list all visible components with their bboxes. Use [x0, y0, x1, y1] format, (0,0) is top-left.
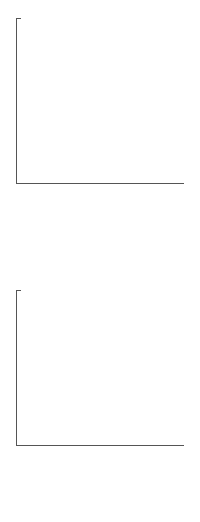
chart-i-am-alert [0, 0, 200, 262]
x-axis-line-bottom [16, 445, 184, 446]
y-axis-line-bottom [16, 290, 17, 446]
y-axis-line-top [16, 18, 17, 184]
x-axis-line-top [16, 183, 184, 184]
plot-area-bottom [16, 290, 184, 446]
plot-area-top [16, 18, 184, 184]
chart-be-alert [0, 262, 200, 522]
